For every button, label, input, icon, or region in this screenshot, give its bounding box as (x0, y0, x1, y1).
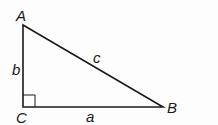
vertex-label-a: A (15, 7, 26, 24)
triangle-shape (23, 25, 163, 107)
triangle-diagram: A b c C a B (0, 0, 218, 125)
triangle-figure: A b c C a B (0, 0, 218, 125)
side-label-c: c (93, 49, 101, 66)
side-label-a: a (86, 108, 94, 125)
right-angle-marker (23, 95, 35, 107)
vertex-label-b: B (167, 99, 177, 116)
vertex-label-c: C (16, 109, 27, 125)
side-label-b: b (12, 61, 20, 78)
